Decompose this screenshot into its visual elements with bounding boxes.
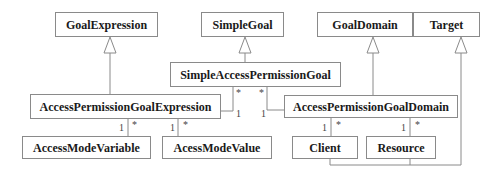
class-name: GoalExpression: [66, 18, 147, 32]
class-name: GoalDomain: [332, 18, 398, 32]
class-name: Client: [309, 141, 340, 155]
class-name: AccessPermissionGoalDomain: [293, 100, 449, 114]
association-sapg-apge: [220, 86, 233, 111]
class-target: Target: [414, 13, 480, 37]
generalization-arrow-target-icon: [455, 37, 467, 53]
mult-client-one: 1: [322, 122, 327, 133]
mult-client-many: *: [336, 119, 341, 130]
class-name: Target: [430, 18, 464, 32]
generalization-arrow-simple-goal-icon: [239, 37, 251, 53]
class-client: Client: [293, 137, 358, 159]
mult-resource-one: 1: [401, 122, 406, 133]
class-name: AccessModeVariable: [33, 141, 141, 155]
class-name: SimpleGoal: [212, 18, 273, 32]
mult-resource-many: *: [415, 119, 420, 130]
class-name: AccessPermissionGoalExpression: [40, 100, 212, 114]
mult-amvar-one: 1: [119, 122, 124, 133]
class-access-mode-variable: AccessModeVariable: [23, 137, 151, 159]
class-access-mode-value: AcessModeValue: [163, 137, 272, 159]
class-access-permission-goal-expression: AccessPermissionGoalExpression: [31, 95, 221, 119]
class-simple-access-permission-goal: SimpleAccessPermissionGoal: [171, 63, 341, 87]
class-name: Resource: [377, 141, 425, 155]
class-access-permission-goal-domain: AccessPermissionGoalDomain: [285, 96, 458, 118]
class-simple-goal: SimpleGoal: [202, 13, 284, 37]
mult-amval-one: 1: [170, 122, 175, 133]
class-name: AcessModeValue: [174, 141, 262, 155]
generalization-arrow-goal-expression-icon: [104, 37, 116, 53]
class-resource: Resource: [367, 137, 436, 159]
uml-diagram: * 1 * 1 1 * 1 * 1 * 1 * GoalExpression S…: [0, 0, 498, 172]
mult-amvar-many: *: [132, 119, 137, 130]
mult-amval-many: *: [183, 119, 188, 130]
class-goal-domain: GoalDomain: [318, 13, 413, 37]
association-sapg-apgd: [267, 86, 284, 110]
generalization-arrow-goal-domain-icon: [367, 37, 379, 53]
mult-sapg-apge-many: *: [236, 87, 241, 98]
class-goal-expression: GoalExpression: [56, 13, 158, 37]
mult-sapg-apgd-many: *: [259, 87, 264, 98]
class-name: SimpleAccessPermissionGoal: [180, 68, 331, 82]
mult-sapg-apgd-one: 1: [261, 108, 266, 119]
mult-sapg-apge-one: 1: [236, 108, 241, 119]
